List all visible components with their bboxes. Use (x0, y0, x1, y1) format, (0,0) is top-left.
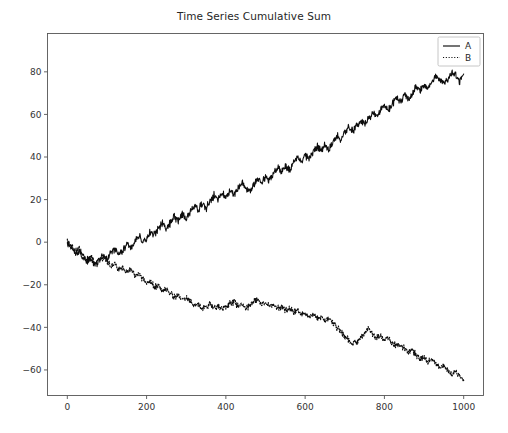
x-tick-label: 600 (297, 402, 314, 412)
y-axis-tick-labels: −60−40−20020406080 (23, 67, 42, 375)
series-line-b (67, 239, 463, 380)
y-tick-label: −40 (23, 323, 42, 333)
axis-tick-marks (44, 72, 464, 399)
x-tick-label: 400 (217, 402, 234, 412)
x-tick-label: 1000 (452, 402, 475, 412)
legend-background (438, 37, 480, 66)
x-tick-label: 0 (64, 402, 70, 412)
legend-label-a: A (465, 41, 472, 51)
y-tick-label: −60 (23, 365, 42, 375)
legend-label-b: B (465, 53, 471, 63)
y-tick-label: 80 (30, 67, 42, 77)
chart-legend: AB (438, 37, 480, 66)
chart-figure: Time Series Cumulative Sum −60−40−200204… (0, 0, 508, 433)
data-series-group (67, 70, 463, 381)
x-tick-label: 200 (138, 402, 155, 412)
y-tick-label: 20 (30, 195, 42, 205)
y-tick-label: 60 (30, 110, 42, 120)
series-line-a (67, 70, 463, 267)
plot-canvas: −60−40−20020406080 02004006008001000 AB (0, 0, 508, 433)
y-tick-label: 0 (36, 237, 42, 247)
x-tick-label: 800 (376, 402, 393, 412)
y-tick-label: 40 (30, 152, 42, 162)
x-axis-tick-labels: 02004006008001000 (64, 402, 475, 412)
y-tick-label: −20 (23, 280, 42, 290)
